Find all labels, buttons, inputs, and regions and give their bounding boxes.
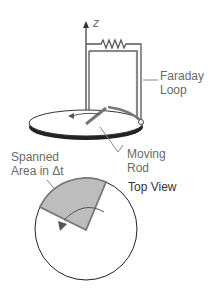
top-view: [35, 178, 137, 280]
faraday-disk-diagram: [0, 0, 209, 294]
z-axis: [83, 21, 89, 122]
moving-rod-label: Moving Rod: [127, 147, 166, 175]
label-line: Area in Δt: [11, 164, 64, 178]
label-line: Spanned: [11, 150, 64, 164]
faraday-loop-label: Faraday Loop: [160, 69, 204, 97]
spanned-area-label: Spanned Area in Δt: [11, 150, 64, 178]
z-axis-label: z: [93, 16, 99, 30]
top-view-label: Top View: [128, 180, 176, 194]
label-line: Rod: [127, 161, 166, 175]
label-line: Moving: [127, 147, 166, 161]
label-line: Loop: [160, 83, 204, 97]
rotating-disk: [29, 110, 143, 140]
label-line: Faraday: [160, 69, 204, 83]
